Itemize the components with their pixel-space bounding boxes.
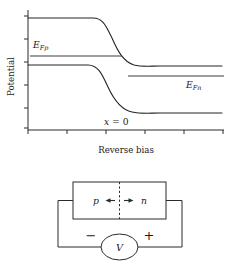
reverse-bias-pn-junction-figure: Potential EFp EFn x = 0 Reverse bias (0, 0, 228, 269)
negative-terminal-label: − (86, 228, 97, 243)
svg-text:EFn: EFn (185, 79, 201, 92)
x-axis-ticks (28, 130, 223, 134)
band-diagram-panel: Potential EFp EFn x = 0 Reverse bias (0, 0, 228, 165)
fermi-level-p-label: EFp (32, 39, 48, 52)
svg-text:x = 0: x = 0 (104, 116, 129, 127)
svg-text:EFp: EFp (32, 39, 48, 52)
conduction-band-curve (28, 18, 222, 66)
depletion-right-arrow-icon (124, 198, 134, 202)
y-axis-ticks (24, 16, 28, 128)
positive-terminal-label: + (144, 228, 155, 243)
junction-position-label: x = 0 (104, 116, 129, 127)
n-region-label: n (141, 195, 147, 206)
p-region-label: p (93, 195, 99, 206)
fermi-level-n-label: EFn (185, 79, 201, 92)
x-axis-caption: Reverse bias (98, 145, 154, 155)
depletion-left-arrow-icon (106, 198, 116, 202)
circuit-panel: p n V − + (0, 168, 228, 269)
y-axis-label: Potential (6, 57, 16, 96)
voltage-source-label: V (116, 242, 124, 253)
